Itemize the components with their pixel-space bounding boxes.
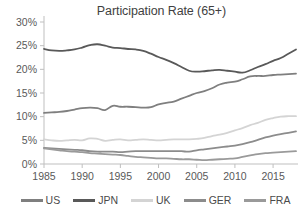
series-line-us [44, 74, 296, 113]
x-tick-label: 1995 [109, 170, 133, 182]
series-line-jpn [44, 44, 296, 72]
chart-legend: US JPN UK GER FRA [0, 190, 305, 210]
legend-swatch-jpn [73, 199, 95, 202]
legend-swatch-fra [244, 199, 266, 202]
x-tick-label: 1990 [71, 170, 95, 182]
y-tick-label: 25% [16, 39, 37, 51]
legend-item-us[interactable]: US [21, 195, 61, 206]
legend-label-fra: FRA [269, 195, 290, 206]
legend-swatch-ger [184, 199, 206, 202]
plot-area: 0%5%10%15%20%25%30% 19851990199520002005… [0, 0, 305, 190]
x-tick-label: 1985 [32, 170, 56, 182]
legend-label-ger: GER [209, 195, 232, 206]
legend-label-us: US [46, 195, 61, 206]
y-tick-label: 5% [22, 134, 37, 146]
y-axis-ticks [40, 22, 44, 164]
legend-item-ger[interactable]: GER [184, 195, 232, 206]
y-tick-label: 30% [16, 16, 37, 28]
x-tick-label: 2000 [147, 170, 171, 182]
series-line-ger [44, 131, 296, 152]
series-lines [44, 44, 296, 160]
legend-swatch-uk [131, 199, 153, 202]
legend-label-jpn: JPN [98, 195, 118, 206]
x-tick-label: 2015 [261, 170, 285, 182]
y-axis-labels: 0%5%10%15%20%25%30% [16, 16, 37, 170]
legend-item-fra[interactable]: FRA [244, 195, 290, 206]
x-tick-label: 2005 [185, 170, 209, 182]
x-tick-label: 2010 [223, 170, 247, 182]
legend-swatch-us [21, 199, 43, 202]
chart-container: Participation Rate (65+) 0%5%10%15%20%25… [0, 0, 305, 216]
legend-item-uk[interactable]: UK [131, 195, 171, 206]
y-tick-label: 15% [16, 87, 37, 99]
y-tick-label: 20% [16, 63, 37, 75]
x-axis-labels: 1985199019952000200520102015 [32, 170, 285, 182]
series-line-uk [44, 116, 296, 141]
y-tick-label: 0% [22, 158, 37, 170]
x-axis-ticks [44, 164, 273, 168]
y-tick-label: 10% [16, 110, 37, 122]
legend-label-uk: UK [156, 195, 171, 206]
legend-item-jpn[interactable]: JPN [73, 195, 118, 206]
